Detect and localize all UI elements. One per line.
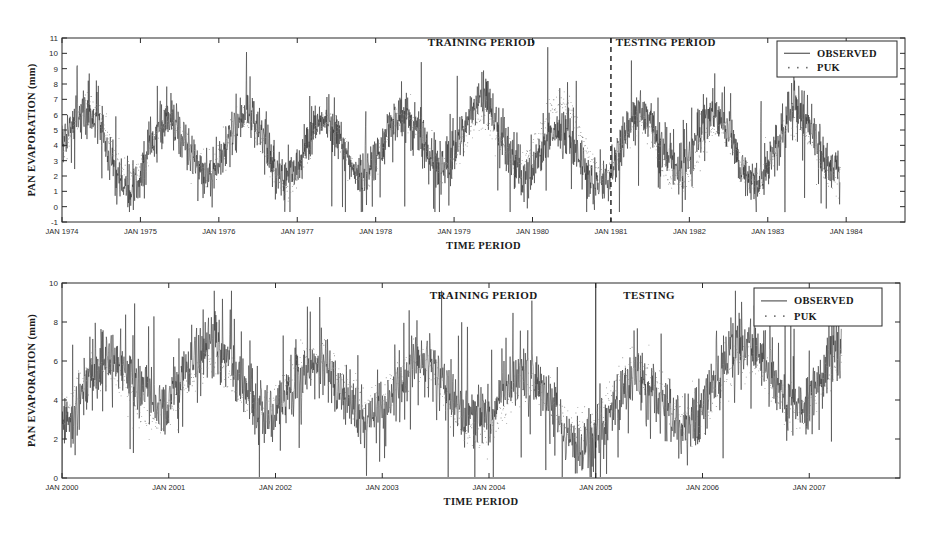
legend: OBSERVEDPUK [777,41,897,77]
y-tick-label: 0 [54,474,59,483]
x-tick-label: JAN 2002 [259,483,292,492]
x-axis-title: TIME PERIOD [446,240,521,251]
y-tick-label: 6 [54,111,59,120]
x-tick-label: JAN 1982 [673,227,706,236]
y-tick-label: 0 [54,203,59,212]
y-axis-title: PAN EVAPORATION (mm) [26,314,38,447]
bottom-plot-svg: 0246810JAN 2000JAN 2001JAN 2002JAN 2003J… [0,266,930,533]
x-tick-label: JAN 2004 [473,483,506,492]
x-tick-label: JAN 1979 [438,227,471,236]
legend-label-puk: PUK [794,311,818,322]
y-tick-label: 4 [54,396,59,405]
x-tick-label: JAN 1975 [124,227,157,236]
legend-swatch-puk-dot [788,67,790,69]
x-tick-label: JAN 2001 [152,483,185,492]
y-tick-label: 5 [54,126,59,135]
y-tick-label: 7 [54,95,59,104]
x-axis-title: TIME PERIOD [444,496,519,507]
pan-evaporation-figure: -101234567891011JAN 1974JAN 1975JAN 1976… [0,0,930,533]
legend-label-observed: OBSERVED [794,295,854,306]
y-tick-label: 10 [49,279,58,288]
data-layer [62,291,842,477]
y-tick-label: 10 [49,49,58,58]
series-observed-path [62,291,841,477]
x-axis: JAN 1974JAN 1975JAN 1976JAN 1977JAN 1978… [46,38,863,236]
x-tick-label: JAN 2003 [366,483,399,492]
annotation-label: TRAINING PERIOD [428,36,536,48]
y-tick-label: 1 [54,187,59,196]
y-tick-label: 3 [54,157,59,166]
x-tick-label: JAN 2006 [686,483,719,492]
y-tick-label: 11 [50,34,59,43]
legend-swatch-puk-dot [806,67,808,69]
legend-label-observed: OBSERVED [817,48,877,59]
top-plot-svg: -101234567891011JAN 1974JAN 1975JAN 1976… [0,0,930,266]
y-axis-title: PAN EVAPORATION (mm) [26,63,38,196]
x-tick-label: JAN 1980 [516,227,549,236]
annotation-label: TESTING PERIOD [616,36,716,48]
top-panel: -101234567891011JAN 1974JAN 1975JAN 1976… [0,0,930,266]
y-tick-label: 2 [54,435,59,444]
x-tick-label: JAN 1983 [751,227,784,236]
data-layer [62,47,841,212]
x-tick-label: JAN 1984 [830,227,863,236]
annotation-label: TRAINING PERIOD [430,289,538,301]
y-tick-label: 8 [54,318,59,327]
x-tick-label: JAN 1981 [594,227,627,236]
x-tick-label: JAN 2005 [579,483,612,492]
y-tick-label: -1 [51,218,59,227]
y-tick-label: 2 [54,172,59,181]
x-tick-label: JAN 1974 [46,227,79,236]
legend-label-puk: PUK [817,62,841,73]
y-tick-label: 8 [54,80,59,89]
legend-swatch-puk-dot [765,315,767,317]
annotation-label: TESTING [623,289,675,301]
legend-swatch-puk-dot [774,315,776,317]
y-tick-label: 4 [54,141,59,150]
x-tick-label: JAN 1977 [281,227,314,236]
x-tick-label: JAN 1978 [359,227,392,236]
legend-swatch-puk-dot [797,67,799,69]
x-tick-label: JAN 1976 [202,227,235,236]
y-tick-label: 6 [54,357,59,366]
bottom-panel: 0246810JAN 2000JAN 2001JAN 2002JAN 2003J… [0,266,930,533]
legend-swatch-puk-dot [783,315,785,317]
legend: OBSERVEDPUK [754,288,882,326]
y-tick-label: 9 [54,65,59,74]
x-tick-label: JAN 2000 [46,483,79,492]
x-tick-label: JAN 2007 [793,483,826,492]
legend-box [754,288,882,326]
